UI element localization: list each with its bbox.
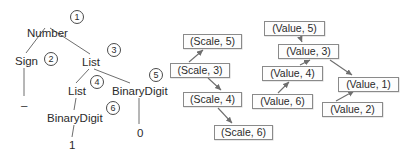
edge-value3-value1 (330, 60, 352, 75)
annotation-circle-4: 4 (90, 75, 104, 89)
graph-node-value-4: (Value, 4) (262, 66, 323, 81)
edge-value6-value4 (278, 82, 289, 93)
figure-canvas: Number Sign List List BinaryDigit Binary… (0, 0, 411, 158)
graph-node-value-1: (Value, 1) (338, 77, 399, 92)
terminal-minus: – (21, 99, 27, 111)
edge-scale3-scale4 (208, 78, 221, 90)
graph-node-scale-5: (Scale, 5) (183, 34, 242, 49)
node-binarydigit-right: BinaryDigit (112, 85, 168, 97)
edge-scale4-scale6 (218, 108, 232, 123)
node-list-outer: List (82, 56, 100, 68)
node-number: Number (27, 27, 68, 39)
node-list-inner: List (68, 85, 86, 97)
graph-node-value-6: (Value, 6) (252, 94, 313, 109)
edge-value5-value3 (300, 37, 302, 42)
annotation-circle-2: 2 (44, 52, 58, 66)
graph-node-value-5: (Value, 5) (264, 21, 325, 36)
edge-scale3-scale5 (189, 50, 203, 62)
edge-value2-value1 (336, 91, 354, 101)
annotation-circle-1: 1 (70, 10, 84, 24)
edge-value4-value3 (300, 60, 310, 65)
annotation-circle-3: 3 (107, 43, 121, 57)
graph-node-scale-6: (Scale, 6) (214, 125, 273, 140)
graph-node-value-3: (Value, 3) (278, 44, 339, 59)
graph-node-scale-4: (Scale, 4) (183, 92, 242, 107)
node-binarydigit-left: BinaryDigit (47, 112, 103, 124)
terminal-one: 1 (69, 139, 75, 151)
graph-node-value-2: (Value, 2) (322, 102, 383, 117)
annotation-circle-5: 5 (149, 68, 163, 82)
node-sign: Sign (15, 55, 38, 67)
graph-node-scale-3: (Scale, 3) (170, 63, 230, 78)
terminal-zero: 0 (137, 127, 143, 139)
annotation-circle-6: 6 (106, 101, 120, 115)
